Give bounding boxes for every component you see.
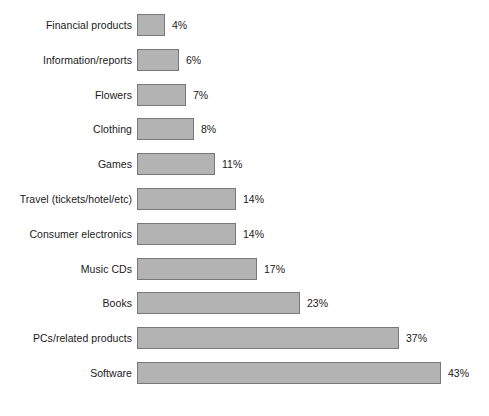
bar xyxy=(137,223,236,245)
bar-row: Games11% xyxy=(0,153,489,175)
bar-wrapper xyxy=(137,188,236,210)
category-label: Clothing xyxy=(0,123,132,135)
category-label: Music CDs xyxy=(0,263,132,275)
bar-value-label: 4% xyxy=(172,14,187,36)
bar-wrapper xyxy=(137,153,215,175)
category-label: Information/reports xyxy=(0,54,132,66)
category-label: Consumer electronics xyxy=(0,228,132,240)
bar xyxy=(137,49,179,71)
bar xyxy=(137,153,215,175)
bar-wrapper xyxy=(137,258,257,280)
category-label: Financial products xyxy=(0,19,132,31)
bar-wrapper xyxy=(137,292,300,314)
bar xyxy=(137,258,257,280)
bar-row: Music CDs17% xyxy=(0,258,489,280)
category-label: Travel (tickets/hotel/etc) xyxy=(0,193,132,205)
bar-wrapper xyxy=(137,223,236,245)
bar-value-label: 11% xyxy=(222,153,242,175)
bar-row: Financial products4% xyxy=(0,14,489,36)
bar xyxy=(137,292,300,314)
bar-value-label: 8% xyxy=(201,118,216,140)
bar-row: Books23% xyxy=(0,292,489,314)
category-label: Books xyxy=(0,297,132,309)
category-label: PCs/related products xyxy=(0,332,132,344)
bar-row: Travel (tickets/hotel/etc)14% xyxy=(0,188,489,210)
bar-wrapper xyxy=(137,49,179,71)
bar-value-label: 37% xyxy=(406,327,427,349)
bar xyxy=(137,14,165,36)
bar-row: Information/reports6% xyxy=(0,49,489,71)
bar xyxy=(137,84,186,106)
bar xyxy=(137,188,236,210)
bar-value-label: 7% xyxy=(193,84,208,106)
category-label: Games xyxy=(0,158,132,170)
bar-row: Consumer electronics14% xyxy=(0,223,489,245)
bar-row: Flowers7% xyxy=(0,84,489,106)
bar xyxy=(137,327,399,349)
category-label: Flowers xyxy=(0,89,132,101)
bar xyxy=(137,362,441,384)
bar xyxy=(137,118,194,140)
bar-wrapper xyxy=(137,14,165,36)
bar-value-label: 17% xyxy=(264,258,285,280)
bar-value-label: 23% xyxy=(307,292,328,314)
bar-value-label: 14% xyxy=(243,223,264,245)
bar-wrapper xyxy=(137,327,399,349)
bar-wrapper xyxy=(137,118,194,140)
bar-value-label: 14% xyxy=(243,188,264,210)
bar-wrapper xyxy=(137,362,441,384)
bar-value-label: 6% xyxy=(186,49,201,71)
bar-wrapper xyxy=(137,84,186,106)
bar-row: Clothing8% xyxy=(0,118,489,140)
category-label: Software xyxy=(0,367,132,379)
bar-row: PCs/related products37% xyxy=(0,327,489,349)
bar-chart: Financial products4%Information/reports6… xyxy=(0,0,489,416)
bar-value-label: 43% xyxy=(448,362,469,384)
bar-row: Software43% xyxy=(0,362,489,384)
